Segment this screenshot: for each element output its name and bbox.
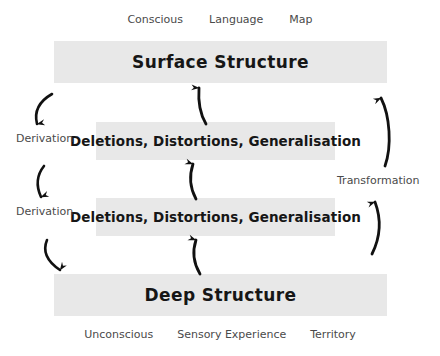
bottom-caption-row: Unconscious Sensory Experience Territory	[0, 328, 440, 341]
derivation-arrow-upper-icon	[36, 94, 52, 124]
transformation-arrow-upper-icon	[381, 98, 389, 166]
derivation-label-lower: Derivation	[16, 205, 73, 218]
center-arrow-lower-icon	[194, 240, 200, 274]
derivation-arrow-lower-icon	[38, 166, 44, 197]
meta-model-diagram: Conscious Language Map Surface Structure…	[0, 0, 440, 356]
surface-structure-band: Surface Structure	[54, 41, 387, 83]
caption-conscious: Conscious	[127, 13, 183, 26]
filters-band-lower: Deletions, Distortions, Generalisation	[96, 198, 335, 236]
top-caption-row: Conscious Language Map	[0, 13, 440, 26]
caption-territory: Territory	[310, 328, 356, 341]
filters-band-upper: Deletions, Distortions, Generalisation	[96, 122, 335, 160]
transformation-arrow-lower-icon	[372, 202, 379, 254]
filters-upper-label: Deletions, Distortions, Generalisation	[70, 133, 361, 149]
caption-map: Map	[289, 13, 312, 26]
filters-lower-label: Deletions, Distortions, Generalisation	[70, 209, 361, 225]
center-arrow-middle-icon	[191, 164, 196, 199]
derivation-arrow-tail-icon	[45, 240, 60, 270]
center-arrow-upper-icon	[199, 88, 206, 124]
caption-sensory-experience: Sensory Experience	[177, 328, 286, 341]
surface-structure-label: Surface Structure	[132, 52, 309, 72]
caption-language: Language	[209, 13, 263, 26]
deep-structure-label: Deep Structure	[145, 285, 297, 305]
deep-structure-band: Deep Structure	[54, 274, 387, 316]
derivation-label-upper: Derivation	[16, 132, 73, 145]
transformation-label: Transformation	[337, 174, 420, 187]
caption-unconscious: Unconscious	[84, 328, 153, 341]
